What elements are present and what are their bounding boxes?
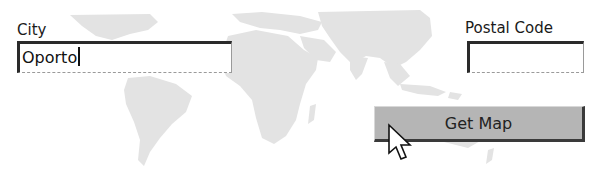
postal-code-input[interactable]	[467, 41, 584, 73]
city-input[interactable]: Oporto	[17, 41, 232, 73]
city-input-value: Oporto	[22, 48, 77, 67]
mouse-pointer-icon	[387, 123, 413, 163]
get-map-button-label: Get Map	[445, 114, 512, 133]
text-caret	[78, 47, 80, 66]
city-label: City	[17, 21, 46, 39]
postal-code-label: Postal Code	[465, 19, 553, 37]
